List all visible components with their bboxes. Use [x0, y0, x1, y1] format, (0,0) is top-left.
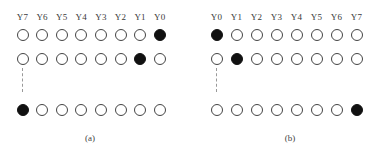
empty-circle: [291, 53, 303, 65]
empty-circle: [291, 104, 303, 116]
empty-circle: [311, 29, 323, 41]
empty-circle: [331, 104, 343, 116]
empty-circle: [211, 53, 223, 65]
column-label-y4: Y4: [287, 11, 307, 23]
empty-circle: [271, 29, 283, 41]
empty-circle: [251, 104, 263, 116]
column-label-y3: Y3: [267, 11, 287, 23]
empty-circle: [331, 53, 343, 65]
column-label-y7: Y7: [347, 11, 367, 23]
column-label-y1: Y1: [227, 11, 247, 23]
empty-circle: [231, 104, 243, 116]
empty-circle: [271, 53, 283, 65]
empty-circle: [311, 53, 323, 65]
empty-circle: [331, 29, 343, 41]
empty-circle: [211, 104, 223, 116]
empty-circle: [311, 104, 323, 116]
filled-circle: [211, 29, 223, 41]
column-label-y5: Y5: [307, 11, 327, 23]
filled-circle: [351, 104, 363, 116]
panel-caption: (b): [275, 132, 305, 144]
empty-circle: [251, 29, 263, 41]
empty-circle: [351, 29, 363, 41]
empty-circle: [251, 53, 263, 65]
column-label-y2: Y2: [247, 11, 267, 23]
column-label-y6: Y6: [327, 11, 347, 23]
column-label-y0: Y0: [207, 11, 227, 23]
empty-circle: [271, 104, 283, 116]
empty-circle: [291, 29, 303, 41]
ellipsis-dashed-line: [216, 68, 217, 92]
panel-b: Y0Y1Y2Y3Y4Y5Y6Y7(b): [0, 0, 188, 152]
empty-circle: [351, 53, 363, 65]
empty-circle: [231, 29, 243, 41]
filled-circle: [231, 53, 243, 65]
